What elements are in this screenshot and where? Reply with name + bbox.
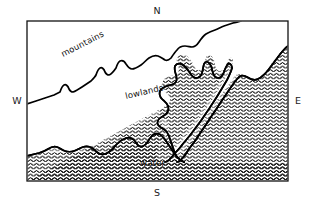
- map-figure: mountains lowlands water N S W E: [0, 0, 313, 206]
- map-interior: mountains lowlands water: [27, 21, 288, 181]
- compass-label-west: W: [12, 95, 22, 106]
- region-label-water: water: [140, 158, 166, 168]
- compass-label-south: S: [154, 187, 160, 198]
- compass-label-north: N: [153, 5, 160, 16]
- compass-label-east: E: [295, 95, 301, 106]
- map-canvas: mountains lowlands water N S W E: [0, 0, 313, 206]
